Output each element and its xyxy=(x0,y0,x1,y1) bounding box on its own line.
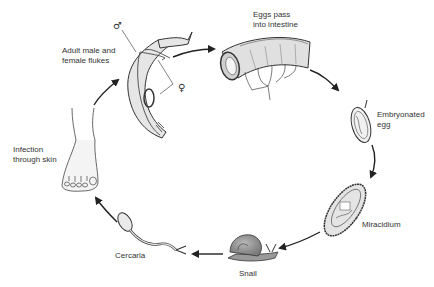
cercaria-label: Cercaria xyxy=(115,251,145,261)
infection-through-skin-label: Infection through skin xyxy=(13,145,57,165)
snail-illustration xyxy=(228,235,278,261)
embryonated-egg-label: Embryonated egg xyxy=(377,110,425,130)
schistosoma-lifecycle-diagram: Adult male and female flukes Eggs pass i… xyxy=(0,0,434,287)
arrow-flukes-to-intestine xyxy=(173,49,214,57)
arrow-cercaria-to-foot xyxy=(96,198,117,222)
adult-flukes-label: Adult male and female flukes xyxy=(62,46,115,66)
female-symbol-icon: ♀ xyxy=(178,83,185,93)
cercaria-illustration xyxy=(115,210,186,254)
snail-label: Snail xyxy=(239,269,257,279)
arrow-egg-to-miracidium xyxy=(371,145,375,177)
miracidium-label: Miracidium xyxy=(362,220,401,230)
foot-illustration xyxy=(62,108,98,191)
eggs-pass-label: Eggs pass into intestine xyxy=(253,10,298,30)
miracidium-illustration xyxy=(316,177,373,242)
male-symbol-icon: ♂ xyxy=(113,21,122,31)
arrow-miracidium-to-snail xyxy=(280,232,320,248)
arrow-foot-to-flukes xyxy=(94,80,118,105)
embryonated-egg-illustration xyxy=(348,100,375,145)
lifecycle-illustration xyxy=(0,0,434,287)
arrow-intestine-to-egg xyxy=(310,70,338,90)
intestine-illustration xyxy=(218,37,310,100)
